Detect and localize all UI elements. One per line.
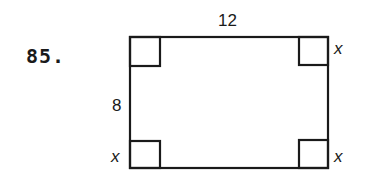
- corner-label-bottom-left: x: [111, 148, 120, 165]
- corner-square-bottom-right: [299, 140, 328, 168]
- length-label: 12: [218, 12, 237, 29]
- corner-square-top-left: [130, 37, 160, 66]
- corner-label-bottom-right: x: [334, 148, 343, 165]
- rectangle-diagram: [0, 0, 366, 175]
- diagram-stage: 85. 12 8 x x x: [0, 0, 366, 175]
- corner-square-top-right: [299, 37, 328, 65]
- corner-label-top-right: x: [334, 40, 343, 57]
- corner-square-bottom-left: [130, 141, 160, 168]
- width-label: 8: [112, 97, 121, 114]
